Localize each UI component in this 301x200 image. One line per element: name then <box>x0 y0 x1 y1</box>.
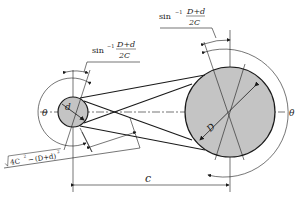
small-diameter-label: d <box>65 102 71 112</box>
span-dim-line <box>90 132 136 147</box>
formula-span-length: 4C 2 − (D+d) 2 <box>4 149 62 168</box>
svg-text:2: 2 <box>57 149 61 154</box>
center-distance-label: c <box>145 172 151 185</box>
span-dim-ext2 <box>130 118 140 148</box>
formula-top-right: sin −1 D+d 2C <box>159 7 205 27</box>
belt-cross-b <box>84 84 192 123</box>
angle-arc-right-top <box>204 40 230 44</box>
angle-arc-left-top <box>66 71 88 73</box>
leader-top-right <box>160 28 216 38</box>
svg-text:(D+d): (D+d) <box>34 152 57 163</box>
span-dim-ext1 <box>82 132 92 152</box>
svg-text:−: − <box>27 155 34 164</box>
svg-text:D+d: D+d <box>116 40 135 49</box>
svg-text:sin: sin <box>92 46 104 55</box>
svg-text:−1: −1 <box>107 43 114 49</box>
belt-cross-a <box>84 101 192 140</box>
svg-text:2C: 2C <box>118 51 130 60</box>
svg-text:2C: 2C <box>188 18 200 27</box>
leader-top-left <box>84 62 140 72</box>
wrap-angle-right-label: θ <box>289 108 295 118</box>
formula-top-left: sin −1 D+d 2C <box>92 40 136 60</box>
svg-text:4C: 4C <box>10 157 21 166</box>
wrap-angle-left-label: θ <box>42 108 48 118</box>
svg-text:sin: sin <box>159 12 171 21</box>
svg-text:2: 2 <box>23 153 27 158</box>
crossed-belt-diagram: c D d θ θ sin −1 D+d 2C sin −1 D+d 2C 4C… <box>0 0 301 200</box>
svg-text:−1: −1 <box>175 9 182 15</box>
svg-text:D+d: D+d <box>186 7 205 16</box>
